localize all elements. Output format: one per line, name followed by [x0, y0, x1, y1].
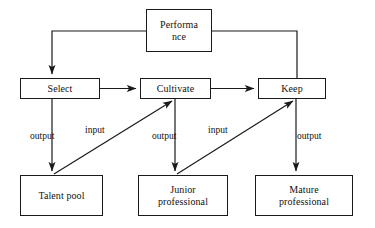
node-talent-pool[interactable]: Talent pool	[20, 175, 103, 216]
edge-label-output-cultivate: output	[152, 131, 176, 141]
node-select-label: Select	[21, 83, 99, 94]
node-keep[interactable]: Keep	[258, 78, 326, 99]
node-mature-professional-label: Mature professional	[256, 184, 352, 206]
connector-performance-to-keep	[212, 31, 297, 78]
node-talent-pool-label: Talent pool	[21, 190, 102, 201]
node-select[interactable]: Select	[20, 78, 100, 99]
node-junior-line2: professional	[158, 196, 208, 207]
edge-label-output-keep: output	[297, 131, 321, 141]
node-cultivate[interactable]: Cultivate	[140, 78, 211, 99]
node-keep-label: Keep	[259, 83, 325, 94]
node-performance-line1: Performa	[160, 19, 198, 30]
edge-label-input-cultivate: input	[85, 125, 105, 135]
connector-performance-to-select	[52, 31, 146, 74]
node-performance[interactable]: Performa nce	[146, 9, 212, 52]
node-junior-line1: Junior	[170, 184, 196, 195]
node-performance-label: Performa nce	[147, 19, 211, 41]
node-junior-professional[interactable]: Junior professional	[138, 175, 228, 216]
edge-label-input-keep: input	[208, 125, 228, 135]
node-junior-professional-label: Junior professional	[139, 184, 227, 206]
node-mature-professional[interactable]: Mature professional	[255, 175, 353, 216]
node-mature-line1: Mature	[289, 184, 318, 195]
diagram-canvas: Performa nce Select Cultivate Keep Talen…	[0, 0, 375, 228]
connector-junior-to-keep	[177, 101, 293, 174]
node-mature-line2: professional	[279, 196, 329, 207]
node-cultivate-label: Cultivate	[141, 83, 210, 94]
node-performance-line2: nce	[172, 31, 186, 42]
edge-label-output-select: output	[30, 131, 54, 141]
